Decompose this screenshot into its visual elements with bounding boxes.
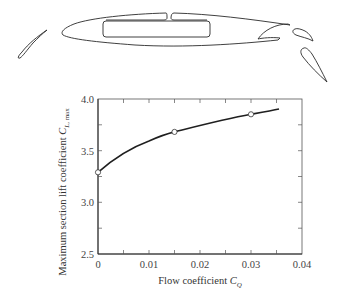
y-ticks bbox=[98, 125, 302, 228]
cove-upper bbox=[258, 24, 290, 39]
cove-lower bbox=[258, 38, 280, 40]
y-tick-label: 2.5 bbox=[81, 249, 94, 260]
x-tick-label: 0.03 bbox=[242, 259, 260, 270]
data-point bbox=[172, 129, 177, 134]
airfoil-diagram bbox=[18, 13, 327, 82]
y-axis-label: Maximum section lift coefficient CL, max bbox=[57, 108, 71, 276]
data-point bbox=[95, 170, 100, 175]
plot-frame bbox=[98, 99, 302, 254]
y-tick-label: 3.0 bbox=[81, 197, 94, 208]
figure: 2.5 3.0 3.5 4.0 0 0.01 0.02 0.03 0.04 Fl… bbox=[0, 0, 350, 303]
x-tick-label: 0 bbox=[95, 259, 100, 270]
y-tick-label: 4.0 bbox=[81, 94, 94, 105]
internal-duct bbox=[103, 21, 210, 37]
x-axis-label: Flow coefficient CQ bbox=[158, 275, 242, 289]
x-tick-label: 0.04 bbox=[293, 259, 312, 270]
main-wing-section bbox=[62, 13, 278, 46]
data-point bbox=[248, 112, 253, 117]
flap-element-1 bbox=[293, 29, 313, 41]
flap-element-2 bbox=[301, 48, 327, 82]
x-tick-label: 0.01 bbox=[140, 259, 158, 270]
x-tick-label: 0.02 bbox=[191, 259, 209, 270]
leading-edge-slat bbox=[18, 30, 47, 58]
plot-area: 2.5 3.0 3.5 4.0 0 0.01 0.02 0.03 0.04 Fl… bbox=[57, 94, 312, 289]
main-wing-upper-aft bbox=[174, 13, 290, 25]
cl-max-curve bbox=[98, 109, 279, 172]
y-tick-label: 3.5 bbox=[81, 146, 94, 157]
x-ticks bbox=[124, 99, 277, 254]
